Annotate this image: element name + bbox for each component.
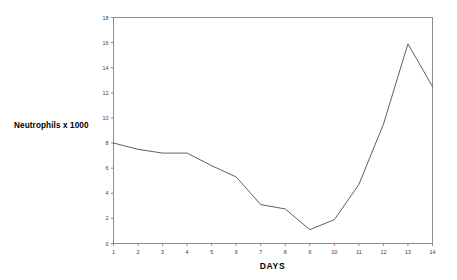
svg-text:0: 0	[106, 241, 109, 247]
plot-frame	[114, 18, 433, 244]
svg-text:4: 4	[106, 190, 109, 196]
svg-text:4: 4	[186, 249, 189, 255]
svg-text:10: 10	[331, 249, 337, 255]
svg-text:6: 6	[235, 249, 238, 255]
svg-text:8: 8	[284, 249, 287, 255]
svg-text:3: 3	[161, 249, 164, 255]
svg-text:5: 5	[210, 249, 213, 255]
svg-text:10: 10	[103, 115, 109, 121]
svg-text:2: 2	[137, 249, 140, 255]
svg-text:9: 9	[308, 249, 311, 255]
chart-figure: Neutrophils x 1000 DAYS 024681012141618 …	[0, 0, 457, 280]
svg-text:7: 7	[259, 249, 262, 255]
svg-text:2: 2	[106, 215, 109, 221]
svg-text:18: 18	[103, 15, 109, 21]
svg-text:6: 6	[106, 165, 109, 171]
svg-text:1: 1	[112, 249, 115, 255]
svg-text:12: 12	[103, 90, 109, 96]
svg-text:8: 8	[106, 140, 109, 146]
svg-text:14: 14	[430, 249, 436, 255]
svg-text:13: 13	[405, 249, 411, 255]
line-chart-plot: 024681012141618 1234567891011121314	[0, 0, 457, 280]
y-axis-ticks: 024681012141618	[103, 15, 114, 247]
svg-text:14: 14	[103, 65, 109, 71]
svg-text:11: 11	[356, 249, 362, 255]
svg-text:16: 16	[103, 40, 109, 46]
svg-text:12: 12	[380, 249, 386, 255]
x-axis-ticks: 1234567891011121314	[112, 244, 436, 255]
